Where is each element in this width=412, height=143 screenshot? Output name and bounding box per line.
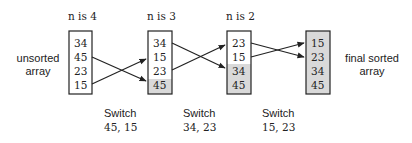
swap-arrows-1 [92,57,146,84]
n-label-1: n is 4 [68,10,97,22]
svg-text:34: 34 [153,37,167,49]
swap-arrows-3 [251,43,304,57]
svg-text:15: 15 [232,51,245,63]
svg-text:45: 45 [153,79,166,91]
array-box-3: 23 15 34 45 [227,31,251,94]
switch-label-3-title: Switch [262,107,294,119]
svg-text:23: 23 [153,65,166,77]
sorted-label-1: final sorted [345,52,399,64]
svg-text:23: 23 [232,37,245,49]
svg-text:15: 15 [311,37,324,49]
n-label-3: n is 2 [226,10,255,22]
sorted-label-2: array [359,65,385,77]
unsorted-label-1: unsorted [17,52,60,64]
svg-text:45: 45 [232,79,245,91]
switch-label-1-values: 45, 15 [104,121,137,133]
svg-text:34: 34 [74,37,88,49]
svg-text:34: 34 [311,65,325,77]
array-box-2: 34 15 23 45 [148,31,172,94]
switch-label-1-title: Switch [104,107,136,119]
svg-text:45: 45 [311,79,324,91]
svg-text:23: 23 [311,51,324,63]
switch-label-2-title: Switch [183,107,215,119]
switch-label-3-values: 15, 23 [262,121,295,133]
array-box-1: 34 45 23 15 [69,31,92,94]
array-box-4: 15 23 34 45 [306,31,330,94]
switch-label-2-values: 34, 23 [183,121,216,133]
svg-text:15: 15 [74,79,87,91]
svg-text:23: 23 [74,65,87,77]
unsorted-label-2: array [25,65,51,77]
selection-sort-diagram: n is 4 n is 3 n is 2 unsorted array fina… [0,0,412,143]
svg-text:45: 45 [74,51,87,63]
svg-text:15: 15 [153,51,166,63]
swap-arrows-2 [172,43,225,70]
svg-text:34: 34 [232,65,246,77]
n-label-2: n is 3 [147,10,176,22]
